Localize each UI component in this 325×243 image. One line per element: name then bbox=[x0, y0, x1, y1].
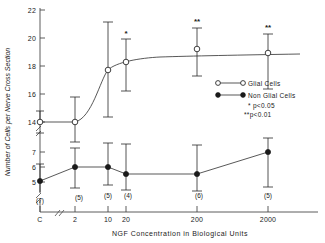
non-glial-point-10 bbox=[105, 164, 110, 169]
legend-note-p01: **p<0.01 bbox=[244, 111, 272, 119]
glial-point-2000 bbox=[265, 50, 271, 56]
figure-container: 22 20 18 16 14 7 6 5 C 2 10 bbox=[0, 0, 325, 243]
significance-marker-2000: ** bbox=[265, 23, 272, 32]
non-glial-error-bars bbox=[36, 138, 273, 193]
y-axis-ticks-upper: 22 20 18 16 14 bbox=[28, 7, 45, 126]
legend-marker-glial-right bbox=[241, 81, 246, 86]
x-axis-ticks: C 2 10 20 200 2000 bbox=[37, 206, 276, 223]
y-tick-label-20: 20 bbox=[28, 35, 36, 42]
significance-marker-20: * bbox=[124, 29, 128, 38]
x-axis-title: NGF Concentration in Biological Units bbox=[112, 230, 248, 238]
significance-markers: * ** ** bbox=[124, 17, 272, 38]
y-tick-label-22: 22 bbox=[28, 7, 36, 14]
y-tick-label-14: 14 bbox=[28, 119, 36, 126]
glial-error-bars bbox=[36, 22, 273, 142]
sample-size-10: (5) bbox=[104, 192, 112, 200]
y-tick-label-7: 7 bbox=[32, 149, 36, 156]
sample-size-labels: (7) (5) (5) (4) (6) (5) bbox=[36, 192, 272, 205]
chart-svg: 22 20 18 16 14 7 6 5 C 2 10 bbox=[0, 0, 325, 243]
sample-size-2000: (5) bbox=[264, 192, 272, 200]
glial-point-10 bbox=[105, 67, 111, 73]
sample-size-2: (5) bbox=[75, 194, 83, 202]
sample-size-20: (4) bbox=[124, 192, 132, 200]
sample-size-200: (6) bbox=[195, 192, 203, 200]
legend-marker-non-glial-left bbox=[216, 93, 221, 98]
x-tick-label-200: 200 bbox=[191, 216, 203, 223]
x-tick-label-2000: 2000 bbox=[260, 216, 276, 223]
glial-point-c bbox=[37, 119, 43, 125]
legend-label-non-glial-cells: Non Glial Cells bbox=[248, 92, 296, 99]
non-glial-point-200 bbox=[194, 171, 199, 176]
sample-size-c: (7) bbox=[36, 197, 44, 205]
non-glial-point-20 bbox=[123, 171, 128, 176]
legend: Glial Cells Non Glial Cells * p<0.05 **p… bbox=[216, 80, 296, 120]
glial-point-200 bbox=[194, 46, 200, 52]
legend-marker-non-glial-right bbox=[241, 93, 246, 98]
x-tick-label-2: 2 bbox=[73, 216, 77, 223]
glial-point-2 bbox=[72, 119, 78, 125]
x-tick-label-c: C bbox=[37, 216, 42, 223]
y-axis-title: Number of Cells per Nerve Cross Section bbox=[4, 48, 12, 176]
legend-label-glial-cells: Glial Cells bbox=[248, 80, 281, 87]
y-tick-label-16: 16 bbox=[28, 91, 36, 98]
non-glial-point-2 bbox=[72, 164, 77, 169]
legend-note-p05: * p<0.05 bbox=[248, 102, 275, 110]
non-glial-point-2000 bbox=[265, 149, 270, 154]
y-tick-label-6: 6 bbox=[32, 164, 36, 171]
glial-point-20 bbox=[123, 59, 129, 65]
non-glial-point-c bbox=[37, 178, 42, 183]
y-tick-label-5: 5 bbox=[32, 179, 36, 186]
legend-marker-glial-left bbox=[216, 81, 221, 86]
x-tick-label-10: 10 bbox=[104, 216, 112, 223]
y-tick-label-18: 18 bbox=[28, 63, 36, 70]
x-tick-label-20: 20 bbox=[122, 216, 130, 223]
significance-marker-200: ** bbox=[194, 17, 201, 26]
series-non-glial-cells bbox=[36, 138, 273, 193]
